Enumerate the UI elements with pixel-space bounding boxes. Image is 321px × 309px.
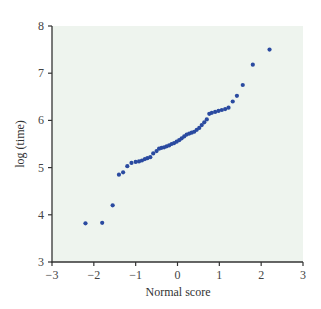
x-tick-label: −1 — [129, 268, 142, 282]
data-point — [235, 94, 239, 98]
data-point — [111, 203, 115, 207]
data-point — [117, 173, 121, 177]
y-tick-label: 3 — [38, 255, 44, 269]
y-tick-label: 5 — [38, 161, 44, 175]
data-point — [241, 83, 245, 87]
x-tick-label: 1 — [216, 268, 222, 282]
data-point — [121, 170, 125, 174]
data-point — [231, 99, 235, 103]
x-tick-label: −2 — [87, 268, 100, 282]
x-tick-label: 0 — [175, 268, 181, 282]
y-tick-label: 7 — [38, 66, 44, 80]
data-point — [251, 63, 255, 67]
data-point — [205, 117, 209, 121]
x-tick-label: 3 — [300, 268, 306, 282]
y-tick-label: 6 — [38, 113, 44, 127]
data-point — [100, 221, 104, 225]
x-axis-label: Normal score — [146, 285, 211, 299]
data-point — [148, 155, 152, 159]
data-point — [83, 221, 87, 225]
x-tick-label: 2 — [258, 268, 264, 282]
y-tick-label: 4 — [38, 208, 44, 222]
plot-panel — [52, 26, 303, 262]
data-point — [226, 106, 230, 110]
y-tick-label: 8 — [38, 19, 44, 33]
data-point — [125, 164, 129, 168]
y-axis-label: log (time) — [13, 120, 27, 168]
data-point — [267, 48, 271, 52]
qq-plot: 345678−3−2−10123 Normal score log (time) — [0, 0, 321, 309]
data-point — [129, 161, 133, 165]
x-tick-label: −3 — [46, 268, 59, 282]
